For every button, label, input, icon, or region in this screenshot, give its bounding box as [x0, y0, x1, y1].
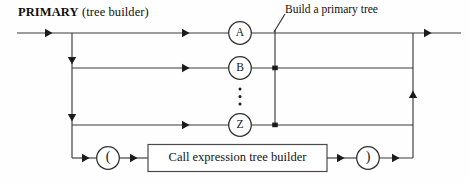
railroad-svg: A B Z — [0, 0, 469, 182]
build-tree-collector-rail — [272, 30, 278, 127]
exit-arrow-icon — [424, 29, 432, 37]
row-z-arrow-icon — [182, 121, 190, 129]
entry-arrow-icon — [45, 29, 53, 37]
row-b-arrow-icon — [182, 64, 190, 72]
close-paren-label: ) — [366, 149, 371, 165]
left-branch-rail — [68, 33, 229, 162]
call-box-entry-arrow-icon — [130, 154, 138, 162]
call-expression-box[interactable]: Call expression tree builder — [148, 145, 327, 172]
right-collector-rail — [409, 33, 417, 158]
branch-z-arrow-icon — [68, 114, 76, 122]
row-entry-arrows — [182, 64, 190, 129]
token-node-a[interactable]: A — [229, 22, 252, 45]
close-paren-node[interactable]: ) — [357, 147, 380, 170]
token-node-b[interactable]: B — [229, 57, 252, 80]
exit-rail — [413, 29, 461, 37]
collector-up-arrow-icon — [409, 90, 417, 98]
open-paren-label: ( — [106, 149, 111, 165]
token-a-label: A — [236, 26, 245, 38]
token-z-label: Z — [236, 118, 243, 130]
call-box-exit-arrow-icon — [337, 154, 345, 162]
railroad-diagram: PRIMARY (tree builder) Build a primary t… — [0, 0, 469, 182]
call-expression-box-label: Call expression tree builder — [169, 150, 308, 164]
branch-b-arrow-icon — [68, 57, 76, 65]
call-branch-exit-arrow-icon — [392, 154, 400, 162]
annotation-leader-line — [274, 14, 285, 32]
open-paren-node[interactable]: ( — [97, 147, 120, 170]
row-a-arrow-icon — [182, 29, 190, 37]
token-b-label: B — [236, 61, 244, 73]
branch-call-arrow-icon — [82, 154, 90, 162]
vertical-ellipsis-icon — [239, 88, 242, 106]
token-node-z[interactable]: Z — [229, 114, 252, 137]
entry-rail — [17, 29, 229, 37]
